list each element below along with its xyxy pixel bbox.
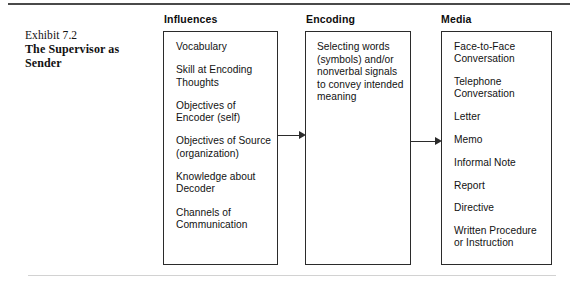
- media-list: Face-to-Face Conversation Telephone Conv…: [454, 41, 546, 260]
- encoding-description: Selecting words (symbols) and/or nonverb…: [317, 41, 405, 104]
- list-item: Memo: [454, 134, 546, 146]
- list-item: Vocabulary: [176, 41, 272, 53]
- arrow-shaft: [278, 135, 300, 136]
- arrow-right-icon-influences-to-encoding: [278, 131, 306, 140]
- encoding-box: Selecting words (symbols) and/or nonverb…: [305, 31, 411, 265]
- arrow-right-icon-encoding-to-media: [411, 137, 442, 146]
- influences-list: Vocabulary Skill at Encoding Thoughts Ob…: [176, 41, 272, 231]
- arrow-shaft: [411, 141, 436, 142]
- list-item: Objectives of Source (organization): [176, 135, 272, 160]
- encoding-content: Selecting words (symbols) and/or nonverb…: [317, 41, 405, 104]
- column-header-media: Media: [441, 13, 472, 25]
- list-item: Informal Note: [454, 157, 546, 169]
- top-rule: [8, 3, 570, 5]
- exhibit-number: Exhibit 7.2: [25, 28, 150, 42]
- media-box: Face-to-Face Conversation Telephone Conv…: [441, 31, 552, 265]
- influences-box: Vocabulary Skill at Encoding Thoughts Ob…: [163, 31, 278, 265]
- list-item: Directive: [454, 202, 546, 214]
- list-item: Objectives of Encoder (self): [176, 100, 272, 125]
- list-item: Telephone Conversation: [454, 76, 546, 101]
- list-item: Written Procedure or Instruction: [454, 225, 546, 250]
- exhibit-title: The Supervisor as Sender: [25, 43, 150, 70]
- exhibit-figure: Exhibit 7.2 The Supervisor as Sender Inf…: [0, 0, 578, 282]
- list-item: Knowledge about Decoder: [176, 171, 272, 196]
- list-item: Face-to-Face Conversation: [454, 41, 546, 66]
- list-item: Skill at Encoding Thoughts: [176, 64, 272, 89]
- list-item: Channels of Communication: [176, 207, 272, 232]
- exhibit-caption: Exhibit 7.2 The Supervisor as Sender: [25, 28, 150, 70]
- bottom-rule: [28, 275, 556, 276]
- column-header-influences: Influences: [164, 13, 217, 25]
- column-header-encoding: Encoding: [306, 13, 355, 25]
- list-item: Report: [454, 180, 546, 192]
- list-item: Letter: [454, 111, 546, 123]
